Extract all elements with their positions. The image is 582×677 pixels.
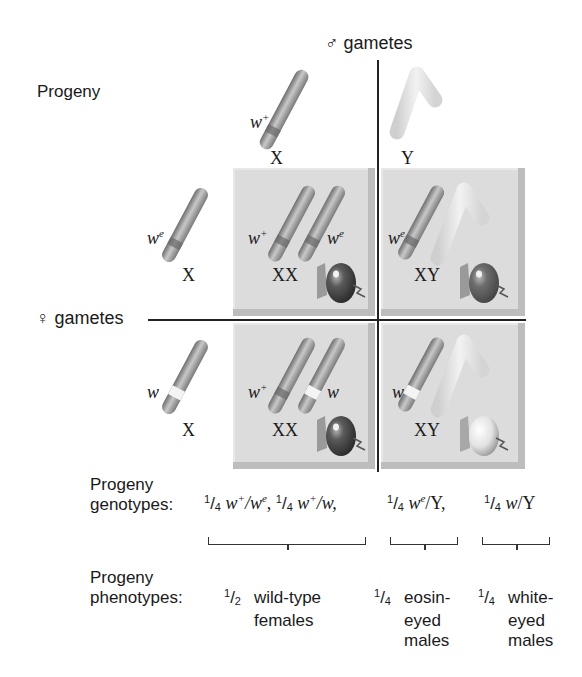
chromosome-label-female-x1: X	[182, 265, 195, 286]
allele-label-male-x: w+	[250, 112, 269, 133]
phenotype-females: 1/2wild-type females	[224, 588, 321, 631]
chromosome-label-female-x2: X	[182, 420, 195, 441]
phenotype-eosin-males: 1/4eosin- eyed males	[374, 588, 450, 651]
chromosome-y-male-icon	[375, 60, 455, 145]
allele-label-cell3-b: w	[327, 382, 339, 403]
phenotypes-label: Progeny phenotypes:	[90, 568, 183, 608]
genotype-label-cell3: XX	[272, 420, 298, 441]
diagram-title: Progeny	[37, 82, 100, 102]
allele-label-cell1-b: we	[327, 228, 344, 249]
allele-label-cell1-a: w+	[248, 228, 267, 249]
genotype-list: 1/4 w+/we, 1/4 w+/w,	[204, 493, 337, 514]
male-gametes-label: ♂ gametes	[325, 33, 413, 54]
fly-eye-red-icon	[315, 408, 370, 466]
genotype-item: 1/4	[204, 494, 221, 513]
genotype-list-male-white: 1/4 w/Y	[484, 493, 535, 514]
genotypes-label: Progeny genotypes:	[90, 475, 173, 515]
genotype-label-cell1: XX	[272, 265, 298, 286]
chromosome-x-female-w-icon	[160, 332, 210, 422]
allele-label-cell3-a: w+	[248, 382, 267, 403]
allele-label-female-w: w	[147, 382, 159, 403]
bracket-females	[208, 537, 366, 545]
fly-eye-white-icon	[458, 408, 513, 466]
fly-eye-red-icon	[315, 255, 370, 313]
genotype-label-cell4: XY	[414, 420, 440, 441]
grid-horizontal-line	[148, 319, 526, 321]
genotype-label-cell2: XY	[414, 265, 440, 286]
chromosome-label-male-x: X	[270, 148, 283, 169]
bracket-eosin-males	[390, 537, 458, 545]
chromosome-x-male-icon	[255, 60, 315, 160]
female-gametes-label: ♀ gametes	[36, 308, 124, 329]
allele-label-cell2: we	[388, 228, 405, 249]
genotype-list-male-eosin: 1/4 we/Y,	[387, 493, 446, 514]
chromosome-x-female-we-icon	[160, 180, 210, 270]
phenotype-white-males: 1/4white- eyed males	[478, 588, 553, 651]
allele-label-female-we: we	[147, 228, 164, 249]
fly-eye-eosin-icon	[458, 255, 513, 313]
allele-label-cell4: w	[392, 382, 404, 403]
bracket-white-males	[482, 537, 550, 545]
genotype-item: 1/4	[276, 494, 293, 513]
chromosome-label-male-y: Y	[401, 148, 414, 169]
